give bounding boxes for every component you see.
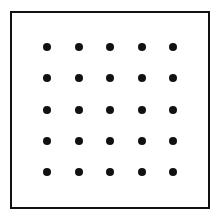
- grid-dot: [75, 43, 83, 51]
- grid-dot: [75, 106, 83, 114]
- dot-grid: [12, 13, 208, 207]
- grid-dot: [43, 43, 51, 51]
- grid-dot: [169, 74, 177, 82]
- grid-dot: [75, 137, 83, 145]
- grid-dot: [106, 74, 114, 82]
- grid-dot: [138, 43, 146, 51]
- grid-dot: [106, 168, 114, 176]
- square-outline-frame: [10, 11, 210, 209]
- grid-dot: [169, 43, 177, 51]
- grid-dot: [138, 137, 146, 145]
- grid-dot: [169, 137, 177, 145]
- grid-dot: [43, 74, 51, 82]
- grid-dot: [75, 168, 83, 176]
- grid-dot: [169, 106, 177, 114]
- grid-dot: [138, 168, 146, 176]
- grid-dot: [106, 43, 114, 51]
- grid-dot: [43, 168, 51, 176]
- grid-dot: [75, 74, 83, 82]
- grid-dot: [43, 137, 51, 145]
- figure-canvas: [0, 0, 220, 222]
- grid-dot: [106, 106, 114, 114]
- grid-dot: [138, 106, 146, 114]
- grid-dot: [138, 74, 146, 82]
- grid-dot: [106, 137, 114, 145]
- grid-dot: [43, 106, 51, 114]
- grid-dot: [169, 168, 177, 176]
